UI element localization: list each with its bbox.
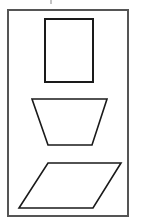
shape-diagram [0,0,144,224]
parallelogram-shape [19,163,121,208]
rectangle-shape [45,19,93,82]
trapezoid-shape [32,99,107,145]
outer-frame [8,10,128,216]
